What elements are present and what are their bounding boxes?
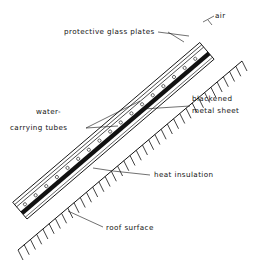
blackened-metal-sheet [21, 52, 211, 215]
label-heat-insulation: heat insulation [154, 170, 214, 179]
label-metal-sheet: metal sheet [192, 106, 239, 115]
label-water-tubes-line2: carrying tubes [10, 123, 68, 132]
label-blackened: blackened [192, 94, 232, 103]
label-air: air [215, 11, 226, 20]
labels: air protective glass plates water- carry… [10, 11, 239, 232]
label-roof-surface: roof surface [106, 223, 154, 232]
insulation-line [25, 57, 212, 217]
solar-collector-diagram: air protective glass plates water- carry… [0, 0, 269, 268]
label-water-tubes-line1: water- [36, 107, 61, 116]
label-protective-glass-plates: protective glass plates [64, 27, 155, 36]
